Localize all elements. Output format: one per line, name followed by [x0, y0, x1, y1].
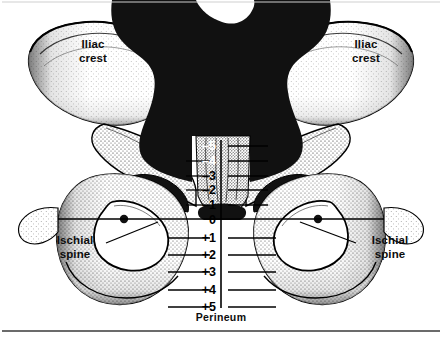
station-tick-minus3: –3: [182, 170, 216, 183]
station-tick-minus1: –1: [182, 199, 216, 212]
station-tick-plus4: +4: [182, 284, 216, 297]
station-tick-0: 0: [182, 214, 216, 227]
station-tick-minus4: –4: [182, 155, 216, 168]
station-scale-numbers: –5–4–3–2–10+1+2+3+4+5: [0, 0, 442, 344]
station-tick-minus5: –5: [182, 140, 216, 153]
pelvis-station-figure: Iliac crest Iliac crest Ischial spine Is…: [0, 0, 442, 344]
station-tick-plus1: +1: [182, 232, 216, 245]
station-tick-minus2: –2: [182, 184, 216, 197]
station-tick-plus3: +3: [182, 266, 216, 279]
station-tick-plus5: +5: [182, 301, 216, 314]
station-tick-plus2: +2: [182, 249, 216, 262]
